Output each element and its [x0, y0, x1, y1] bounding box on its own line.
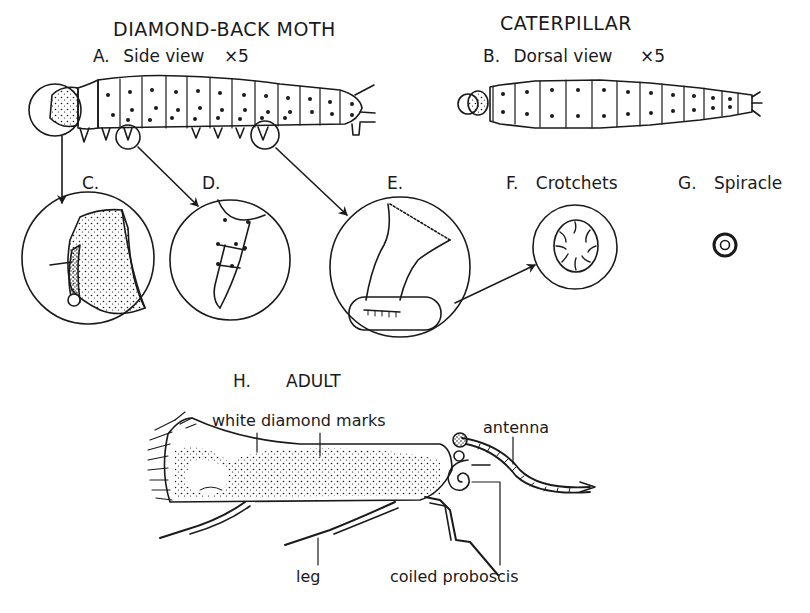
diagram-artwork [0, 0, 810, 613]
detail-d-proleg [170, 200, 290, 320]
detail-f-crotchets [533, 205, 617, 289]
magnifier-circle-proleg [116, 125, 140, 149]
arrow-to-d [138, 147, 198, 206]
arrow-to-f [455, 265, 535, 303]
detail-e-abdominal-proleg [330, 197, 470, 337]
arrow-to-e [276, 148, 347, 215]
caterpillar-dorsal-view [458, 80, 762, 128]
detail-c-head [22, 192, 154, 324]
caterpillar-side-view [29, 76, 375, 150]
detail-g-spiracle [714, 234, 736, 256]
adult-moth [148, 412, 595, 575]
